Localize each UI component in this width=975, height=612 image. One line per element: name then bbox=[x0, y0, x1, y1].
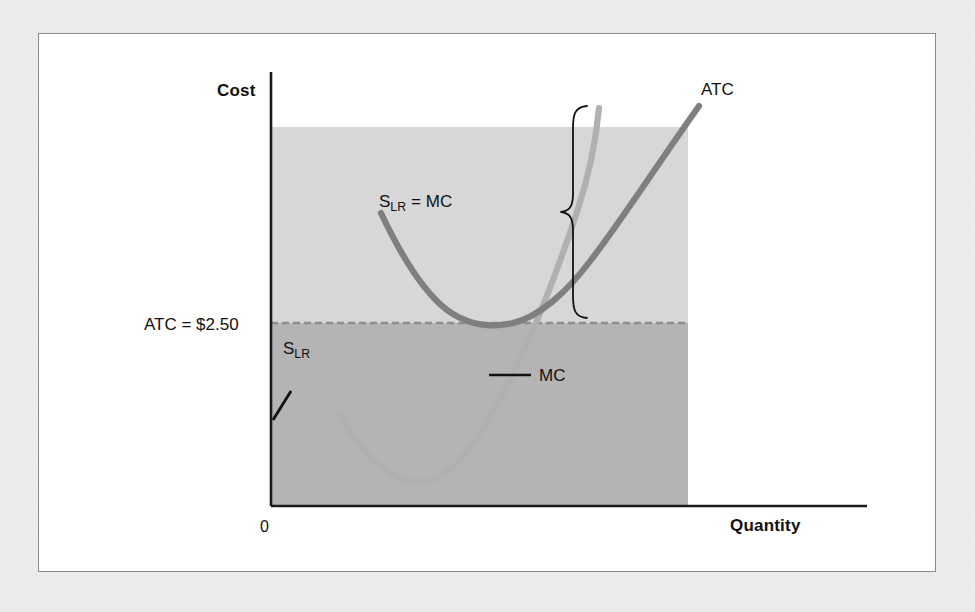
atc-price-level-label: ATC = $2.50 bbox=[144, 316, 239, 333]
origin-label: 0 bbox=[260, 519, 269, 535]
slr-region-label: SLR bbox=[283, 340, 310, 361]
cost-curves-chart bbox=[39, 34, 935, 571]
slr-mc-label-sub: LR bbox=[390, 200, 406, 214]
slr-equals-mc-label: SLR = MC bbox=[379, 193, 452, 214]
lower-shade-region bbox=[271, 323, 688, 506]
mc-curve-label: MC bbox=[539, 367, 565, 384]
slr-mc-label-prefix: S bbox=[379, 192, 390, 211]
atc-curve-label: ATC bbox=[701, 81, 734, 98]
y-axis-label: Cost bbox=[217, 82, 256, 99]
x-axis-label: Quantity bbox=[730, 517, 801, 534]
slr-region-label-sub: LR bbox=[294, 347, 310, 361]
figure-panel: Cost Quantity 0 ATC = $2.50 ATC MC SLR S… bbox=[38, 33, 936, 572]
upper-shade-region bbox=[271, 127, 688, 323]
slr-region-label-prefix: S bbox=[283, 339, 294, 358]
slr-mc-label-suffix: = MC bbox=[406, 192, 452, 211]
